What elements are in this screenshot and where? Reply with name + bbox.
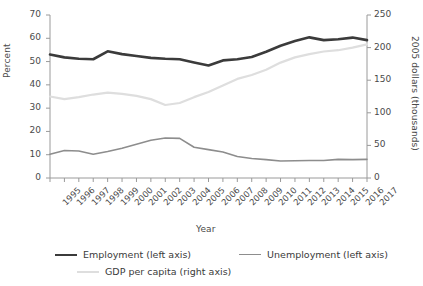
plot-area bbox=[0, 0, 423, 286]
y-axis-left-tick-label: 0 bbox=[19, 172, 41, 182]
legend-item-unemployment: Unemployment (left axis) bbox=[239, 249, 388, 261]
y-axis-right-tick-label: 0 bbox=[374, 172, 400, 182]
chart-container: Percent 2005 dollars (thousands) Year 01… bbox=[0, 0, 423, 286]
legend-label-employment: Employment (left axis) bbox=[83, 249, 191, 261]
y-axis-left-tick-label: 40 bbox=[19, 79, 41, 89]
y-axis-left-tick-label: 60 bbox=[19, 32, 41, 42]
y-axis-right-tick-label: 250 bbox=[374, 9, 400, 19]
y-axis-right-tick-label: 200 bbox=[374, 42, 400, 52]
legend-line-employment-icon bbox=[55, 254, 77, 256]
y-axis-right-tick-label: 100 bbox=[374, 107, 400, 117]
y-axis-left-tick-label: 20 bbox=[19, 125, 41, 135]
y-axis-left-tick-label: 30 bbox=[19, 102, 41, 112]
y-axis-left-tick-label: 10 bbox=[19, 149, 41, 159]
legend-label-unemployment: Unemployment (left axis) bbox=[267, 249, 388, 261]
legend-item-gdp: GDP per capita (right axis) bbox=[77, 266, 231, 278]
y-axis-left-tick-label: 50 bbox=[19, 56, 41, 66]
y-axis-right-tick-label: 50 bbox=[374, 139, 400, 149]
legend-item-employment: Employment (left axis) bbox=[55, 249, 191, 261]
y-axis-right-tick-label: 150 bbox=[374, 74, 400, 84]
chart-legend: Employment (left axis) Unemployment (lef… bbox=[55, 246, 395, 280]
legend-line-unemployment-icon bbox=[239, 254, 261, 255]
y-axis-left-tick-label: 70 bbox=[19, 9, 41, 19]
legend-line-gdp-icon bbox=[77, 271, 99, 273]
legend-label-gdp: GDP per capita (right axis) bbox=[105, 266, 231, 278]
